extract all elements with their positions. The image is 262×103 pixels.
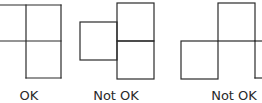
figure-1-label: OK xyxy=(20,88,39,103)
fig2-left-square xyxy=(80,22,117,60)
figure-not-ok-2: Not OK xyxy=(181,3,262,103)
figure-2-label: Not OK xyxy=(93,88,139,103)
diagram-canvas: OK Not OK Not OK xyxy=(0,0,262,103)
figure-ok: OK xyxy=(0,5,61,103)
fig2-top-square xyxy=(117,3,154,41)
fig2-bottom-square xyxy=(117,41,154,79)
fig3-top-square xyxy=(218,3,255,41)
figure-not-ok-1: Not OK xyxy=(80,3,154,103)
fig3-left-square xyxy=(181,41,218,79)
figure-3-label: Not OK xyxy=(211,88,257,103)
